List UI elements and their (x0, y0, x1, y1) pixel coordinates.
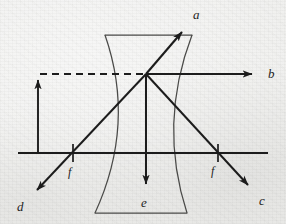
ray-label-a: a (193, 8, 200, 21)
focal-label-left: f (68, 166, 71, 178)
ray-d-line (37, 74, 146, 190)
diverging-lens-outline (95, 35, 192, 213)
ray-label-d: d (17, 200, 24, 213)
ray-label-b: b (268, 67, 275, 80)
ray-label-c: c (259, 194, 265, 207)
ray-diagram-canvas (0, 0, 286, 224)
optics-ray-diagram-figure: a b c d e f f (0, 0, 286, 224)
lens-right-concave-surface (174, 35, 192, 213)
focal-label-right: f (211, 165, 214, 177)
ray-label-e: e (141, 196, 147, 209)
ray-a-line (146, 32, 182, 74)
ray-c-line (146, 74, 248, 185)
